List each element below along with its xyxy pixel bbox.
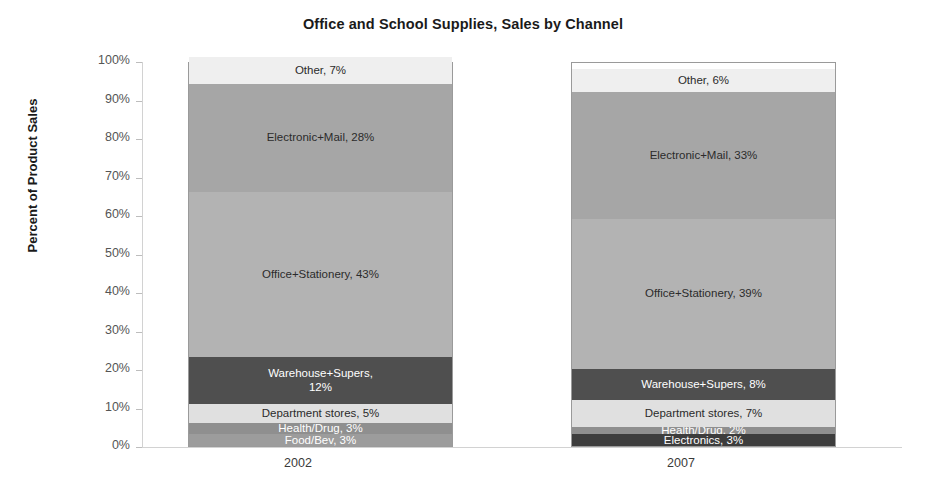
plot-area: Food/Bev, 3%Health/Drug, 3%Department st…: [142, 62, 902, 447]
bar-segment[interactable]: Department stores, 7%: [572, 400, 835, 427]
bar-segment-label: Department stores, 5%: [259, 407, 383, 420]
bar-segment[interactable]: Health/Drug, 3%: [189, 423, 452, 435]
y-axis-tick-label: 0%: [112, 438, 130, 452]
bar-segment[interactable]: Food/Bev, 3%: [189, 434, 452, 446]
x-axis-label-2002: 2002: [238, 456, 358, 470]
y-axis-tick-label: 70%: [105, 169, 130, 183]
stacked-bar-2007[interactable]: Electronics, 3%Health/Drug, 2%Department…: [571, 62, 836, 447]
bar-segment-label: Food/Bev, 3%: [282, 434, 359, 446]
x-axis-line: [142, 447, 902, 448]
y-axis-tick-label: 10%: [105, 400, 130, 414]
bar-segment-label: Other, 7%: [292, 64, 349, 77]
bar-segment[interactable]: Health/Drug, 2%: [572, 427, 835, 435]
y-axis-title: Percent of Product Sales: [25, 26, 40, 326]
bar-segment[interactable]: Other, 6%: [572, 69, 835, 92]
stacked-bar-2002[interactable]: Food/Bev, 3%Health/Drug, 3%Department st…: [188, 62, 453, 447]
bar-segment[interactable]: Warehouse+Supers, 12%: [189, 357, 452, 403]
y-axis-tick-label: 100%: [98, 53, 130, 67]
bar-segment-label: Office+Stationery, 39%: [642, 287, 765, 300]
bar-segment[interactable]: Office+Stationery, 39%: [572, 219, 835, 369]
bar-segment[interactable]: Electronic+Mail, 28%: [189, 84, 452, 192]
bar-segment-label: Other, 6%: [675, 74, 732, 87]
bar-segment-label: Warehouse+Supers, 8%: [638, 378, 769, 391]
chart-title: Office and School Supplies, Sales by Cha…: [0, 16, 926, 32]
bar-segment-label: Office+Stationery, 43%: [259, 268, 382, 281]
y-axis-tick-label: 50%: [105, 246, 130, 260]
y-axis-tick-label: 60%: [105, 207, 130, 221]
bar-segment[interactable]: Department stores, 5%: [189, 404, 452, 423]
bar-segment[interactable]: Electronics, 3%: [572, 434, 835, 446]
chart-container: Office and School Supplies, Sales by Cha…: [0, 0, 926, 486]
bar-segment-label: Health/Drug, 3%: [275, 423, 365, 435]
bar-segment-label: Electronic+Mail, 28%: [264, 131, 378, 144]
x-axis-label-2007: 2007: [621, 456, 741, 470]
y-axis-tick-label: 30%: [105, 323, 130, 337]
bar-segment[interactable]: Other, 7%: [189, 57, 452, 84]
y-axis-tick-label: 90%: [105, 92, 130, 106]
bar-segment[interactable]: Office+Stationery, 43%: [189, 192, 452, 358]
y-axis-tick-label: 20%: [105, 361, 130, 375]
bar-segment-label: Department stores, 7%: [642, 407, 766, 420]
y-axis-tick-label: 80%: [105, 130, 130, 144]
bar-segment-label: Electronic+Mail, 33%: [647, 149, 761, 162]
bar-segment-label: Health/Drug, 2%: [658, 427, 748, 435]
bar-segment-label: Warehouse+Supers, 12%: [265, 367, 376, 393]
bar-segment[interactable]: Electronic+Mail, 33%: [572, 92, 835, 219]
y-axis-tick-label: 40%: [105, 284, 130, 298]
bar-segment[interactable]: Warehouse+Supers, 8%: [572, 369, 835, 400]
bar-segment-label: Electronics, 3%: [661, 434, 746, 446]
